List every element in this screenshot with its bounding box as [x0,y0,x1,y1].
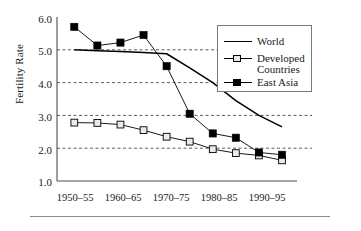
data-point [186,138,193,145]
data-point [232,134,239,141]
series-developed-countries [71,119,285,164]
legend-line-sample-east-asia [222,75,254,89]
data-point [278,151,285,158]
legend-label-developed-countries-line2: Countries [257,63,300,76]
legend-line-sample-world [222,34,254,48]
chart-legend: World Developed Countries East Asia [217,25,312,92]
data-point [186,110,193,117]
x-tick-label-1970-75: 1970–75 [153,192,190,203]
data-point [163,133,170,140]
data-point [255,149,262,156]
data-point [163,63,170,70]
data-point [94,42,101,49]
fertility-rate-chart: Fertility Rate 6.0 5.0 4.0 3.0 2.0 1.0 1… [0,0,361,231]
data-point [209,146,216,153]
data-point [140,127,147,134]
data-point [140,31,147,38]
legend-label-east-asia: East Asia [257,76,298,89]
data-point [117,39,124,46]
x-tick-label-1990-95: 1990–95 [249,192,286,203]
legend-item-east-asia: East Asia [218,75,311,89]
x-tick-label-1950-55: 1950–55 [57,192,94,203]
legend-item-world: World [218,34,311,48]
legend-line-sample-developed-countries [222,51,254,65]
x-tick-label-1960-65: 1960–65 [105,192,142,203]
footer-divider [30,216,330,217]
data-point [94,120,101,127]
series-line [74,123,282,161]
legend-label-world: World [257,35,284,48]
data-point [209,130,216,137]
filled-square-marker-icon [233,79,241,86]
data-point [71,23,78,30]
open-square-marker-icon [233,55,241,62]
data-point [232,150,239,157]
x-tick-label-1980-85: 1980–85 [201,192,238,203]
data-point [117,121,124,128]
data-point [71,119,78,126]
